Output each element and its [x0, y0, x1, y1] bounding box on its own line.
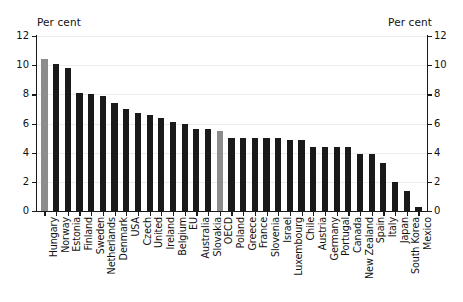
bar	[88, 94, 94, 211]
x-axis-label: Norway	[60, 217, 71, 253]
bar	[298, 140, 304, 211]
bar-chart: Per cent Per cent HungaryNorwayEstoniaFi…	[0, 0, 463, 302]
bar	[322, 147, 328, 211]
category-tick	[126, 212, 127, 216]
category-tick	[91, 212, 92, 216]
y-tick-label-left: 8	[23, 89, 29, 99]
category-tick	[68, 212, 69, 216]
bar	[53, 64, 59, 211]
category-tick	[173, 212, 174, 216]
bar	[217, 131, 223, 211]
y-tick-label-left: 2	[23, 177, 29, 187]
category-tick	[243, 212, 244, 216]
y-tick-right	[428, 36, 432, 37]
bar	[193, 129, 199, 211]
x-axis-label: Germany	[329, 217, 340, 260]
x-axis-label: Australia	[200, 217, 211, 259]
y-tick-right	[428, 65, 432, 66]
bar	[380, 163, 386, 211]
category-tick	[360, 212, 361, 216]
y-tick-left	[32, 94, 36, 95]
category-tick	[383, 212, 384, 216]
category-tick	[208, 212, 209, 216]
category-tick	[407, 212, 408, 216]
bar	[123, 109, 129, 211]
x-axis-label: Denmark	[118, 217, 129, 260]
category-tick	[395, 212, 396, 216]
category-tick	[348, 212, 349, 216]
bar	[252, 138, 258, 211]
x-axis-label: Finland	[83, 217, 94, 251]
bar	[369, 154, 375, 211]
bar	[170, 122, 176, 211]
category-tick	[278, 212, 279, 216]
x-axis-label: OECD	[223, 217, 234, 244]
bar	[147, 115, 153, 211]
category-tick	[150, 212, 151, 216]
category-tick	[325, 212, 326, 216]
bar	[205, 129, 211, 211]
x-axis-label: Israel	[282, 217, 293, 243]
bar	[158, 118, 164, 211]
bar	[392, 182, 398, 211]
y-tick-right	[428, 94, 432, 95]
x-axis-label: New Zealand	[364, 217, 375, 279]
x-axis-label: France	[258, 217, 269, 248]
category-tick	[313, 212, 314, 216]
y-tick-left	[32, 124, 36, 125]
category-tick	[56, 212, 57, 216]
y-tick-label-right: 8	[434, 89, 440, 99]
y-tick-label-right: 2	[434, 177, 440, 187]
bar	[76, 93, 82, 211]
category-tick	[231, 212, 232, 216]
bar	[65, 68, 71, 211]
right-axis-caption: Per cent	[388, 16, 432, 28]
x-axis-label: Belgium	[177, 217, 188, 256]
bar	[345, 147, 351, 211]
category-tick	[220, 212, 221, 216]
y-tick-right	[428, 153, 432, 154]
x-axis-label: Czech	[142, 217, 153, 246]
x-axis-label: Greece	[247, 217, 258, 251]
x-axis-label: United	[153, 217, 164, 248]
bar	[357, 154, 363, 211]
bar	[111, 103, 117, 211]
bar	[334, 147, 340, 211]
x-axis-label: Canada	[352, 217, 363, 253]
x-axis-labels: HungaryNorwayEstoniaFinlandSwedenNetherl…	[36, 217, 427, 302]
y-tick-right	[428, 182, 432, 183]
category-tick	[44, 212, 45, 216]
x-axis-label: Italy	[387, 217, 398, 237]
y-tick-left	[32, 182, 36, 183]
category-tick	[138, 212, 139, 216]
bar	[287, 140, 293, 211]
bar	[228, 138, 234, 211]
category-tick	[115, 212, 116, 216]
category-tick	[255, 212, 256, 216]
bar	[182, 124, 188, 212]
x-axis-label: Chile	[305, 217, 316, 241]
y-tick-label-left: 12	[16, 31, 29, 41]
category-tick	[372, 212, 373, 216]
y-tick-right	[428, 211, 432, 212]
category-tick	[79, 212, 80, 216]
x-axis-label: EU	[188, 217, 199, 230]
category-tick	[290, 212, 291, 216]
y-tick-left	[32, 36, 36, 37]
category-tick	[161, 212, 162, 216]
x-axis-label: Luxembourg	[293, 217, 304, 276]
x-axis-label: Austria	[317, 217, 328, 250]
x-axis-label: Hungary	[48, 217, 59, 257]
x-axis-label: Japan	[399, 217, 410, 243]
bar-series	[36, 36, 427, 211]
category-tick	[103, 212, 104, 216]
y-tick-label-left: 0	[23, 206, 29, 216]
y-tick-label-right: 12	[434, 31, 447, 41]
y-tick-label-right: 10	[434, 60, 447, 70]
bar	[240, 138, 246, 211]
y-tick-label-left: 4	[23, 148, 29, 158]
bar	[135, 113, 141, 211]
x-axis-label: Slovenia	[270, 217, 281, 257]
x-axis-label: Slovakia	[212, 217, 223, 256]
category-tick	[418, 212, 419, 216]
